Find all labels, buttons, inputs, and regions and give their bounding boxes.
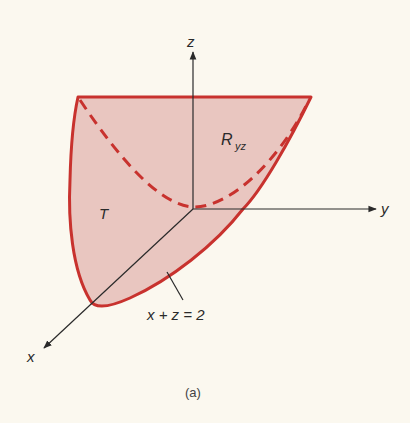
projection-label-r: R bbox=[221, 131, 233, 148]
z-axis-label: z bbox=[186, 33, 195, 50]
plane-equation-label: x + z = 2 bbox=[146, 306, 205, 323]
projection-label-subscript: yz bbox=[234, 140, 247, 152]
figure-caption: (a) bbox=[185, 385, 201, 400]
plane-leader-line bbox=[167, 272, 183, 300]
y-axis-label: y bbox=[380, 200, 390, 217]
solid-region-diagram: z y x T R yz x + z = 2 (a) bbox=[0, 0, 410, 423]
x-axis-label: x bbox=[26, 348, 35, 365]
solid-region-t bbox=[70, 97, 311, 306]
